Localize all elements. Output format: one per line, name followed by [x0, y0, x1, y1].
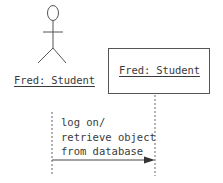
message-line-1: log on/ — [61, 115, 156, 130]
message-line-2: retrieve object — [61, 130, 156, 145]
stick-figure-icon — [38, 6, 66, 64]
message-label: log on/ retrieve object from database — [61, 115, 156, 159]
object-label: Fred: Student — [119, 64, 200, 77]
message-line-3: from database — [61, 144, 156, 159]
actor-label: Fred: Student — [14, 74, 95, 87]
sequence-diagram: Fred: Student Fred: Student log on/ retr… — [0, 0, 223, 183]
